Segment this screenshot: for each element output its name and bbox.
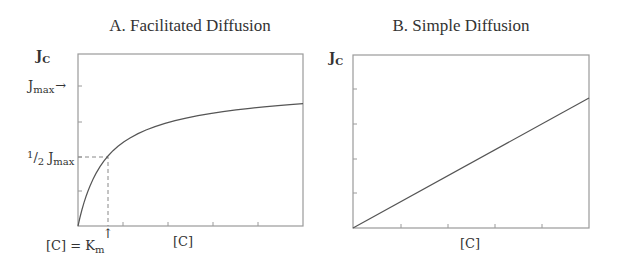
figure: A. Facilitated Diffusion JC Jmax→ 1/2Jma… (0, 0, 617, 267)
half-jmax-label: 1/2Jmax (27, 149, 75, 167)
panel-b-y-ticks (353, 89, 357, 193)
panel-a-title: A. Facilitated Diffusion (109, 16, 271, 35)
panel-a-y-axis-label: JC (35, 48, 50, 65)
panel-a-plot-frame (78, 54, 303, 226)
panel-b-x-axis-label: [C] (460, 236, 480, 251)
jmax-label: Jmax→ (26, 78, 66, 95)
panel-b-simple-diffusion: B. Simple Diffusion JC [C] (328, 16, 589, 251)
panel-b-plot-frame (353, 55, 589, 228)
km-arrow-icon: ↑ (103, 226, 114, 241)
linear-flux-line (353, 98, 589, 228)
panel-a-x-axis-label: [C] (173, 234, 193, 249)
half-jmax-km-guide-lines (78, 157, 108, 226)
panel-a-x-ticks (123, 222, 258, 226)
panel-b-x-ticks (401, 224, 542, 228)
panel-b-title: B. Simple Diffusion (392, 16, 530, 35)
panel-b-y-axis-label: JC (328, 50, 343, 67)
saturation-curve (78, 104, 303, 226)
km-label: [C] = Km (46, 238, 105, 255)
panel-a-facilitated-diffusion: A. Facilitated Diffusion JC Jmax→ 1/2Jma… (26, 16, 303, 255)
